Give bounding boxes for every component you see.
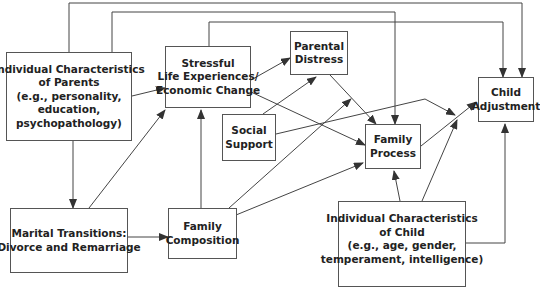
edge-parents-to-family-process [112,12,395,124]
node-label-line: Stressful [181,57,234,71]
node-label-line: psychopathology) [16,117,122,131]
node-social-support: SocialSupport [222,114,276,161]
node-label-line: Distress [295,53,343,67]
node-label-line: Individual Characteristics [326,212,477,226]
node-label-line: Family [374,133,413,147]
edge-child-characteristics-to-child-adjustment [422,120,457,201]
edge-parental-distress-to-family-process [330,75,376,124]
node-label-line: Child [491,86,521,100]
node-label-line: Family [183,220,222,234]
node-label-line: Social [231,124,266,138]
node-label-line: (e.g., age, gender, [348,239,457,253]
node-label-line: Support [225,138,272,152]
node-child-adjustment: ChildAdjustment [478,77,534,122]
node-parent-characteristics: Individual Characteristicsof Parents(e.g… [6,52,132,141]
node-stressful-life-experiences: StressfulLife Experiences/Economic Chang… [165,46,251,108]
node-parental-distress: ParentalDistress [290,31,348,75]
node-label-line: Adjustment [472,100,540,114]
node-label-line: Life Experiences/ [157,70,258,84]
node-child-characteristics: Individual Characteristicsof Child(e.g.,… [338,201,466,287]
node-label-line: temperament, intelligence) [321,253,483,267]
node-family-composition: FamilyComposition [168,208,237,259]
node-family-process: FamilyProcess [365,124,421,169]
edge-stressful-to-child-adjustment [209,22,503,77]
node-label-line: Economic Change [156,84,260,98]
node-label-line: of Child [379,226,424,240]
node-label-line: Composition [166,234,240,248]
node-label-line: Marital Transitions: [11,227,126,241]
edge-child-characteristics-to-family-process [394,171,400,201]
node-label-line: of Parents [39,76,100,90]
node-label-line: education, [38,103,101,117]
node-label-line: Divorce and Remarriage [0,241,141,255]
node-label-line: Individual Characteristics [0,63,145,77]
edge-social-support-to-parental-distress [263,77,316,114]
node-label-line: Process [370,147,416,161]
node-marital-transitions: Marital Transitions:Divorce and Remarria… [10,208,128,273]
node-label-line: (e.g., personality, [16,90,121,104]
node-label-line: Parental [294,40,344,54]
